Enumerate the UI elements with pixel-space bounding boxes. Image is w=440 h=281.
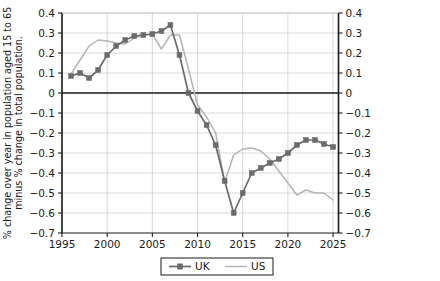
series-marker-uk — [195, 109, 200, 114]
x-tick-label: 1995 — [49, 238, 76, 250]
y-tick-label-left: 0.2 — [38, 47, 55, 59]
x-tick-label: 2010 — [184, 238, 211, 250]
y-tick-label-right: −0.5 — [346, 187, 372, 199]
series-marker-uk — [177, 53, 182, 58]
series-marker-uk — [213, 143, 218, 148]
y-tick-label-left: −0.2 — [30, 127, 56, 139]
series-marker-uk — [204, 123, 209, 128]
y-tick-label-right: −0.4 — [346, 167, 372, 179]
y-tick-label-right: −0.6 — [346, 207, 372, 219]
series-marker-uk — [69, 74, 74, 79]
x-tick-label: 2025 — [320, 238, 347, 250]
y-tick-label-right: −0.7 — [346, 227, 372, 239]
series-marker-uk — [87, 76, 92, 81]
series-marker-uk — [313, 138, 318, 143]
y-tick-label-left: −0.5 — [30, 187, 56, 199]
y-tick-label-right: −0.2 — [346, 127, 372, 139]
chart-container: −0.7−0.7−0.6−0.6−0.5−0.5−0.4−0.4−0.3−0.3… — [0, 0, 440, 281]
series-marker-uk — [222, 179, 227, 184]
series-marker-uk — [231, 211, 236, 216]
series-marker-uk — [331, 145, 336, 150]
y-tick-label-left: −0.4 — [30, 167, 56, 179]
series-marker-uk — [96, 68, 101, 73]
y-tick-label-left: 0.4 — [38, 7, 55, 19]
y-tick-label-right: −0.1 — [346, 107, 372, 119]
y-tick-label-right: 0.3 — [346, 27, 363, 39]
series-marker-uk — [105, 53, 110, 58]
series-marker-uk — [258, 166, 263, 171]
y-axis-title: % change over year in population aged 15… — [2, 7, 24, 239]
series-marker-uk — [295, 143, 300, 148]
series-marker-uk — [168, 23, 173, 28]
y-tick-label-right: 0.4 — [346, 7, 363, 19]
y-tick-label-right: 0.2 — [346, 47, 363, 59]
y-tick-label-right: 0.1 — [346, 67, 363, 79]
series-marker-uk — [304, 138, 309, 143]
series-marker-uk — [240, 191, 245, 196]
y-tick-label-left: −0.7 — [30, 227, 56, 239]
series-marker-uk — [141, 33, 146, 38]
y-tick-label-right: −0.3 — [346, 147, 372, 159]
series-marker-uk — [276, 157, 281, 162]
chart-legend[interactable]: UKUS — [161, 258, 273, 275]
x-tick-label: 2020 — [275, 238, 302, 250]
series-marker-uk — [159, 29, 164, 34]
y-tick-label-right: 0 — [346, 87, 353, 99]
legend-label-uk: UK — [195, 260, 211, 272]
series-marker-uk — [150, 32, 155, 37]
series-marker-uk — [132, 34, 137, 39]
y-axis-title-line2: minus % change in total population. — [13, 36, 24, 210]
series-marker-uk — [123, 38, 128, 43]
y-tick-label-left: −0.1 — [30, 107, 56, 119]
line-chart: −0.7−0.7−0.6−0.6−0.5−0.5−0.4−0.4−0.3−0.3… — [0, 0, 440, 281]
legend-swatch-marker-uk — [177, 264, 182, 269]
series-marker-uk — [78, 71, 83, 76]
y-tick-label-left: 0 — [48, 87, 55, 99]
x-tick-label: 2005 — [139, 238, 166, 250]
series-marker-uk — [114, 44, 119, 49]
legend-label-us: US — [251, 260, 266, 272]
y-tick-label-left: 0.3 — [38, 27, 55, 39]
series-marker-uk — [249, 171, 254, 176]
x-tick-label: 2000 — [94, 238, 121, 250]
series-marker-uk — [186, 91, 191, 96]
series-marker-uk — [267, 161, 272, 166]
x-tick-label: 2015 — [229, 238, 256, 250]
series-marker-uk — [286, 151, 291, 156]
series-marker-uk — [322, 142, 327, 147]
y-tick-label-left: −0.6 — [30, 207, 56, 219]
y-axis-title-line1: % change over year in population aged 15… — [2, 7, 13, 239]
y-tick-label-left: 0.1 — [38, 67, 55, 79]
y-tick-label-left: −0.3 — [30, 147, 56, 159]
